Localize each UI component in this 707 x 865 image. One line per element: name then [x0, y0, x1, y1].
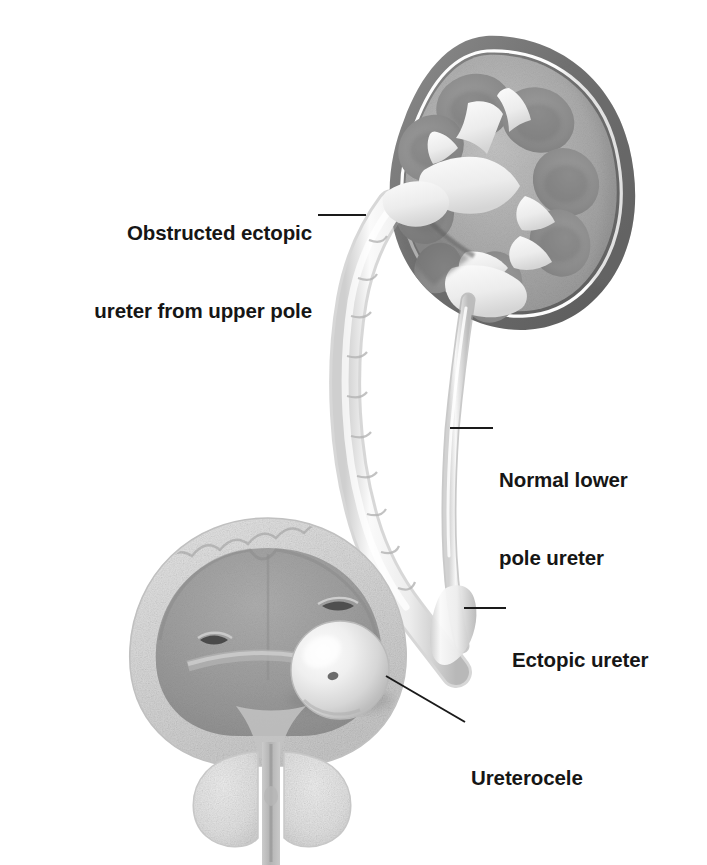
- label-line: Ectopic ureter: [512, 647, 648, 673]
- label-line: Normal lower: [499, 467, 628, 493]
- label-normal-lower-pole-ureter: Normal lower pole ureter: [499, 415, 628, 597]
- label-obstructed-ectopic-ureter: Obstructed ectopic ureter from upper pol…: [94, 168, 312, 350]
- ectopic-ureter-distal-bulge: [430, 585, 476, 665]
- label-line: ureter from upper pole: [94, 298, 312, 324]
- label-line: pole ureter: [499, 545, 628, 571]
- bladder-group: [130, 518, 406, 766]
- ureterocele: [291, 621, 389, 719]
- label-line: Ureterocele: [471, 765, 583, 791]
- label-ureterocele: Ureterocele: [471, 713, 583, 817]
- label-line: Obstructed ectopic: [94, 220, 312, 246]
- label-ectopic-ureter: Ectopic ureter: [512, 595, 648, 699]
